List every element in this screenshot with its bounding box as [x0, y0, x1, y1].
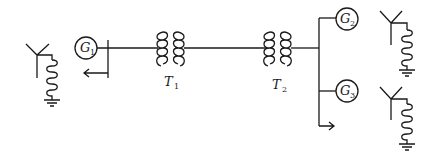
load-arrow-bus2 [319, 122, 334, 130]
ground-icon [44, 100, 60, 106]
svg-text:T: T [164, 74, 174, 89]
svg-text:G: G [340, 11, 350, 26]
generator-g1: G 1 [75, 37, 97, 59]
svg-text:G: G [340, 83, 350, 98]
wye-grounding-right-top [380, 11, 415, 76]
svg-text:1: 1 [90, 48, 95, 57]
wye-grounding-left [26, 44, 60, 106]
svg-text:2: 2 [350, 19, 355, 28]
svg-text:G: G [80, 40, 90, 55]
generator-g2: G 2 [336, 8, 358, 30]
ground-icon [399, 70, 415, 76]
ground-icon [399, 144, 415, 150]
power-system-diagram: G 1 T 1 T 2 G 2 G 3 [0, 0, 437, 155]
svg-text:3: 3 [350, 91, 355, 100]
svg-text:1: 1 [174, 82, 179, 91]
svg-text:T: T [272, 77, 282, 92]
svg-text:2: 2 [282, 85, 287, 94]
wye-grounding-right-bottom [380, 87, 415, 150]
generator-g3: G 3 [336, 80, 358, 102]
load-arrow-bus1 [84, 69, 108, 77]
transformer-t2: T 2 [264, 32, 292, 94]
transformer-t1: T 1 [157, 32, 185, 91]
